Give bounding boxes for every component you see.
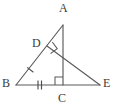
right-angle-mark-d	[51, 42, 58, 54]
vertex-label-a: A	[59, 2, 68, 14]
segment-b-a	[16, 25, 63, 85]
vertex-label-b: B	[2, 77, 10, 89]
vertex-label-d: D	[32, 37, 41, 49]
right-angle-mark-c	[55, 77, 63, 85]
vertex-label-e: E	[103, 77, 110, 89]
geometry-figure: A B C D E	[0, 0, 117, 108]
vertex-label-c: C	[58, 92, 66, 104]
